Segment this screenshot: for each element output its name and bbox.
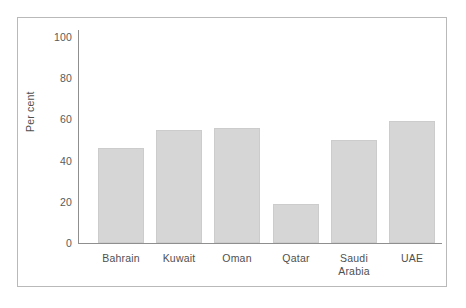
- y-axis-tick-label: 20: [0, 196, 72, 208]
- bar: [156, 130, 202, 243]
- bar: [214, 128, 260, 243]
- y-axis-tick-label: 40: [0, 155, 72, 167]
- bar-chart-figure: Per cent 020406080100 BahrainKuwaitOmanQ…: [0, 0, 466, 308]
- x-axis-tick-label-line: Arabia: [314, 265, 394, 278]
- y-axis-line: [78, 30, 79, 244]
- x-axis-tick-label-line: UAE: [372, 252, 452, 265]
- x-axis-line: [78, 243, 442, 244]
- y-axis-tick-label: 100: [0, 31, 72, 43]
- bar: [331, 140, 377, 243]
- bar: [389, 121, 435, 243]
- bar: [273, 204, 319, 243]
- bar: [98, 148, 144, 243]
- y-axis-tick-label: 80: [0, 72, 72, 84]
- x-axis-tick-label: UAE: [372, 252, 452, 265]
- y-axis-tick-label: 0: [0, 237, 72, 249]
- y-axis-tick-label: 60: [0, 113, 72, 125]
